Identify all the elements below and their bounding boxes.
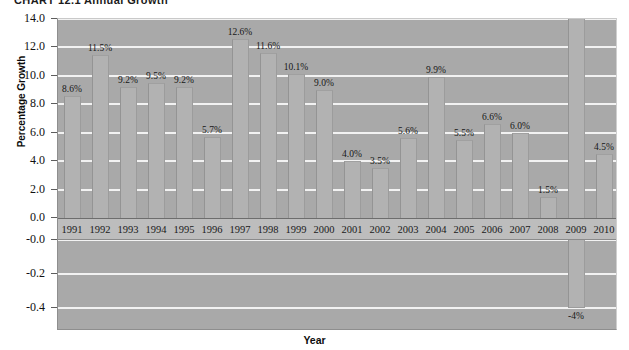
gridline xyxy=(58,18,616,20)
gridline xyxy=(58,103,616,105)
x-axis-tick-label: 1993 xyxy=(118,224,139,235)
bar-value-label: 6.6% xyxy=(482,112,502,122)
x-axis-tick-label: 1995 xyxy=(174,224,195,235)
x-axis-tick-label: 2001 xyxy=(342,224,363,235)
bar[interactable] xyxy=(176,87,193,218)
bar-value-label: 11.5% xyxy=(88,43,112,53)
x-axis-label-band: 1991199219931994199519961997199819992000… xyxy=(58,218,616,240)
bar-value-label: 10.1% xyxy=(284,62,309,72)
x-axis-labels: 1991199219931994199519961997199819992000… xyxy=(58,219,616,239)
gridline xyxy=(58,273,616,275)
bar[interactable] xyxy=(596,154,613,218)
gridline xyxy=(58,307,616,309)
bar-value-label: 9.2% xyxy=(118,75,138,85)
x-axis-tick-label: 1996 xyxy=(202,224,223,235)
bar[interactable] xyxy=(568,19,585,308)
x-axis-tick-label: 2005 xyxy=(454,224,475,235)
gridline xyxy=(58,189,616,191)
gridline xyxy=(58,160,616,162)
bar[interactable] xyxy=(92,55,109,218)
bar[interactable] xyxy=(344,161,361,218)
x-axis-tick-label: 2010 xyxy=(594,224,615,235)
bar[interactable] xyxy=(372,168,389,218)
x-axis-tick-label: 2007 xyxy=(510,224,531,235)
bar[interactable] xyxy=(64,96,81,218)
bar[interactable] xyxy=(428,77,445,218)
bar-value-label: 11.6% xyxy=(256,41,280,51)
bar-value-label: 4.5% xyxy=(594,142,614,152)
bar[interactable] xyxy=(400,138,417,218)
bar-value-label: 9.9% xyxy=(426,65,446,75)
bar[interactable] xyxy=(148,83,165,218)
x-axis-tick-label: 2003 xyxy=(398,224,419,235)
x-axis-title: Year xyxy=(0,334,629,346)
x-axis-tick-label: 1994 xyxy=(146,224,167,235)
bar-value-label: 3.5% xyxy=(370,156,390,166)
bar-value-label: 9.0% xyxy=(314,78,334,88)
bar-value-label: 8.6% xyxy=(62,84,82,94)
bar-value-label: 6.0% xyxy=(510,121,530,131)
x-axis-tick-label: 1992 xyxy=(90,224,111,235)
bar[interactable] xyxy=(120,87,137,218)
x-axis-tick-label: 1998 xyxy=(258,224,279,235)
plot-area: 8.6%11.5%9.2%9.5%9.2%5.7%12.6%11.6%10.1%… xyxy=(57,18,617,330)
chart-figure: CHART 12.1 Annual Growth Percentage Grow… xyxy=(0,0,629,350)
bar-value-label: 5.5% xyxy=(454,128,474,138)
bar[interactable] xyxy=(260,53,277,218)
bar-value-label: 12.6% xyxy=(228,27,253,37)
bar[interactable] xyxy=(456,140,473,218)
bar-value-label: 9.5% xyxy=(146,71,166,81)
y-axis-tick-label: -0.0 xyxy=(26,232,45,247)
y-axis-tick-label: -0.4 xyxy=(26,300,45,315)
x-axis-tick-label: 2009 xyxy=(566,224,587,235)
y-axis-lower-ticks: -0.0-0.2-0.4 xyxy=(0,0,53,350)
gridline xyxy=(58,46,616,48)
gridline xyxy=(58,132,616,134)
bar-value-label: 5.7% xyxy=(202,125,222,135)
bar-value-label: 4.0% xyxy=(342,149,362,159)
x-axis-tick-label: 1991 xyxy=(62,224,83,235)
x-axis-tick-label: 2002 xyxy=(370,224,391,235)
bar-value-label: 5.6% xyxy=(398,126,418,136)
x-axis-tick-label: 1999 xyxy=(286,224,307,235)
bar[interactable] xyxy=(540,197,557,218)
x-axis-tick-label: 2004 xyxy=(426,224,447,235)
bar-value-label: -4% xyxy=(568,311,584,321)
bar[interactable] xyxy=(204,137,221,218)
bar[interactable] xyxy=(316,90,333,218)
bar[interactable] xyxy=(512,133,529,218)
bar-value-label: 1.5% xyxy=(538,185,558,195)
bar[interactable] xyxy=(288,74,305,218)
x-axis-tick-label: 2006 xyxy=(482,224,503,235)
x-axis-tick-label: 2000 xyxy=(314,224,335,235)
bar[interactable] xyxy=(232,39,249,218)
x-axis-tick-label: 2008 xyxy=(538,224,559,235)
x-axis-tick-label: 1997 xyxy=(230,224,251,235)
gridline xyxy=(58,75,616,77)
bar[interactable] xyxy=(484,124,501,218)
y-axis-tick-label: -0.2 xyxy=(26,266,45,281)
bar-value-label: 9.2% xyxy=(174,75,194,85)
